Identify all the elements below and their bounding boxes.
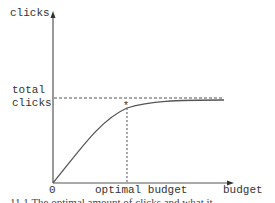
figure-caption: 11.1 The optimal amount of clicks and wh… xyxy=(10,196,213,203)
optimal-marker: * xyxy=(123,101,129,112)
x-axis-label: budget xyxy=(223,184,263,196)
total-clicks-label-1: total xyxy=(12,84,45,96)
y-axis-label: clicks xyxy=(10,7,50,19)
origin-label: 0 xyxy=(49,184,56,196)
clicks-curve xyxy=(53,100,224,183)
y-axis-arrow-icon xyxy=(51,11,56,18)
optimal-budget-label: optimal budget xyxy=(95,184,187,196)
total-clicks-label-2: clicks xyxy=(12,97,52,109)
